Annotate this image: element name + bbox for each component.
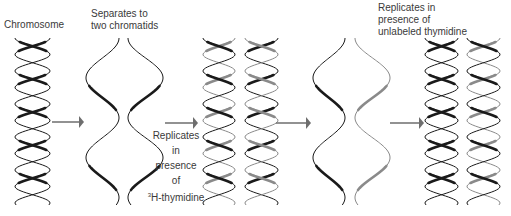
thymidine-text: H-thymidine bbox=[151, 192, 204, 203]
replicates-unlabeled-line-1: Replicates in bbox=[378, 2, 508, 14]
separates-line-1: Separates to bbox=[91, 8, 171, 20]
arrow-head-icon bbox=[306, 117, 311, 129]
arrow-4 bbox=[390, 117, 424, 129]
replicates-labeled-line-3: presence bbox=[140, 158, 212, 173]
separates-line-2: two chromatids bbox=[91, 20, 171, 32]
stage-replicated-unlabeled bbox=[425, 38, 500, 205]
strand-old-front-segment bbox=[316, 86, 342, 110]
arrow-3 bbox=[276, 117, 311, 129]
strand-old-front-segment bbox=[316, 166, 342, 190]
strand-labeled bbox=[355, 38, 390, 205]
double-helix-1 bbox=[425, 38, 458, 205]
single-chromatid-1 bbox=[86, 38, 119, 205]
separates-label: Separates to two chromatids bbox=[91, 8, 171, 32]
single-chromatid-2 bbox=[355, 38, 390, 205]
strand-old bbox=[425, 38, 458, 205]
strand-labeled-front-segment bbox=[358, 166, 386, 190]
strand-labeled-front-segment bbox=[358, 86, 386, 110]
strand-old-front-segment bbox=[89, 86, 116, 110]
strand-old-front-segment bbox=[89, 166, 116, 190]
replicates-unlabeled-line-3: unlabeled thymidine bbox=[378, 26, 508, 38]
double-helix-2 bbox=[245, 38, 278, 205]
stage-separated-after-label bbox=[313, 38, 390, 205]
strand-old bbox=[15, 38, 50, 205]
strand-old bbox=[467, 38, 500, 205]
strand-old bbox=[313, 38, 345, 205]
replicates-labeled-line-2: in bbox=[140, 143, 212, 158]
stage-chromosome bbox=[15, 38, 50, 205]
double-helix-1 bbox=[15, 38, 50, 205]
replicates-labeled-label: Replicates in presence of 3H-thymidine bbox=[140, 128, 212, 205]
replicates-labeled-line-1: Replicates bbox=[140, 128, 212, 143]
arrow-head-icon bbox=[79, 116, 84, 128]
arrow-head-icon bbox=[419, 117, 424, 129]
replicates-labeled-line-4: of bbox=[140, 173, 212, 188]
stage-replicated-labeled bbox=[203, 38, 278, 205]
single-chromatid-1 bbox=[313, 38, 345, 205]
arrow-1 bbox=[52, 116, 84, 128]
replicates-unlabeled-line-2: presence of bbox=[378, 14, 508, 26]
strand-labeled bbox=[245, 38, 278, 205]
replicates-unlabeled-label: Replicates in presence of unlabeled thym… bbox=[378, 2, 508, 38]
double-helix-2 bbox=[467, 38, 500, 205]
strand-old-front-segment bbox=[131, 86, 159, 110]
strand-old bbox=[86, 38, 119, 205]
replicates-labeled-line-5: 3H-thymidine bbox=[140, 188, 212, 205]
chromosome-label: Chromosome bbox=[4, 19, 64, 31]
